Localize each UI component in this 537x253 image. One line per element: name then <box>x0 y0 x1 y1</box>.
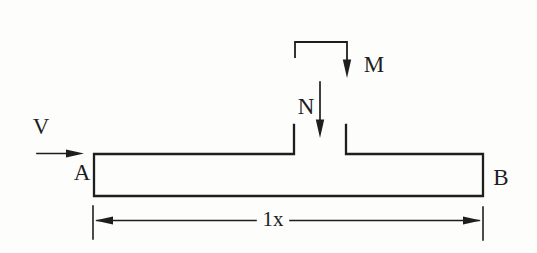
beam-free-body-diagram: V A B N M 1x <box>0 0 537 253</box>
beam-end-label-b: B <box>493 166 508 189</box>
axial-force-label: N <box>298 95 315 118</box>
axial-force-arrowhead <box>316 120 324 139</box>
diagram-arrowheads <box>66 60 481 225</box>
shear-force-arrowhead <box>66 149 84 157</box>
diagram-strokes <box>37 42 483 240</box>
moment-label: M <box>364 53 384 76</box>
beam-outline <box>94 125 483 196</box>
moment-arrowhead <box>343 60 351 79</box>
dimension-arrowhead-left <box>95 217 113 225</box>
dimension-arrowhead-right <box>463 217 481 225</box>
beam-end-label-a: A <box>74 161 91 184</box>
shear-force-label: V <box>33 115 50 138</box>
span-dimension-label: 1x <box>263 209 284 230</box>
moment-bracket <box>295 42 347 61</box>
